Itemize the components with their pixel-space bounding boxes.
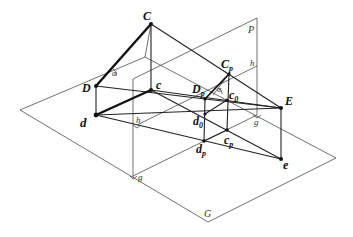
label-cp: cp — [224, 133, 233, 149]
label-G: G — [204, 208, 211, 219]
ground-plane — [20, 57, 336, 222]
vertical-Dp-dp — [204, 99, 205, 141]
segment-CD — [96, 24, 151, 86]
point-cp — [225, 128, 229, 132]
label-c: c — [156, 78, 162, 92]
label-dp: dp — [196, 142, 206, 158]
label-P: P — [247, 24, 254, 35]
label-alpha-right: α — [217, 85, 222, 94]
label-E: E — [284, 94, 293, 108]
label-Cp: Cp — [221, 57, 233, 73]
label-h-right: h — [250, 58, 255, 68]
point-d0 — [203, 112, 206, 115]
label-C: C — [143, 9, 152, 23]
point-d — [94, 113, 99, 118]
label-g-right: g — [254, 117, 259, 127]
point-c — [149, 88, 153, 92]
point-D — [94, 84, 98, 88]
label-h-left: h — [136, 115, 141, 125]
label-Dp: Dp — [191, 82, 205, 98]
label-e: e — [283, 158, 289, 172]
segment-cd — [96, 90, 151, 115]
label-d: d — [80, 115, 87, 130]
label-g-left: g — [138, 172, 143, 182]
point-dp — [202, 139, 206, 143]
segment-c0d0 — [205, 100, 227, 114]
ray-c-E — [151, 90, 281, 108]
label-c0: c0 — [229, 88, 238, 104]
perspective-diagram: C D c d E e Cp Dp c0 d0 cp dp P G h h g … — [0, 0, 353, 237]
point-E — [279, 106, 283, 110]
label-D: D — [81, 81, 91, 95]
